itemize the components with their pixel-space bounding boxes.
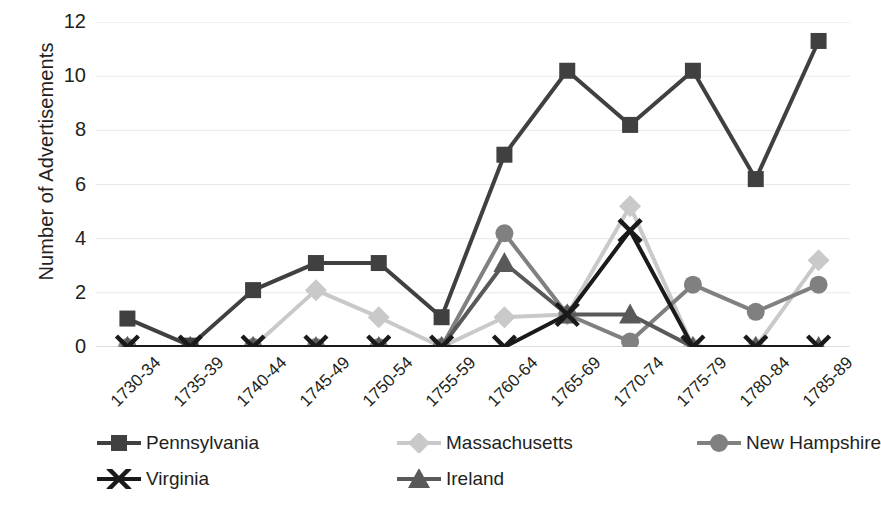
data-point-square bbox=[811, 33, 827, 49]
x-axis-tick-label: 1755-59 bbox=[421, 353, 479, 411]
x-axis-tick-label: 1740-44 bbox=[233, 353, 291, 411]
data-point-square bbox=[685, 63, 701, 79]
legend-item-new-hampshire[interactable]: New Hampshire bbox=[696, 430, 881, 456]
x-axis-ticks: 1730-341735-391740-441745-491750-541755-… bbox=[96, 349, 850, 439]
x-axis-tick-label: 1735-39 bbox=[170, 353, 228, 411]
data-point-square bbox=[434, 309, 450, 325]
data-point-circle bbox=[810, 276, 828, 294]
x-axis-tick-label: 1760-64 bbox=[484, 353, 542, 411]
legend-marker-triangle-icon bbox=[396, 469, 442, 489]
legend-item-ireland[interactable]: Ireland bbox=[396, 466, 504, 492]
series-massachusetts bbox=[116, 195, 829, 347]
legend-label: Virginia bbox=[146, 468, 209, 490]
legend-marker-diamond-icon bbox=[396, 433, 442, 453]
data-point-circle bbox=[747, 303, 765, 321]
legend-item-virginia[interactable]: Virginia bbox=[96, 466, 209, 492]
data-point-square bbox=[119, 311, 135, 327]
y-axis-tick-label: 2 bbox=[46, 282, 86, 302]
y-axis-tick-label: 12 bbox=[46, 11, 86, 31]
series-new-hampshire bbox=[118, 224, 827, 347]
x-axis-tick-label: 1775-79 bbox=[673, 353, 731, 411]
data-point-square bbox=[371, 255, 387, 271]
legend-marker-cross-icon bbox=[96, 469, 142, 489]
legend-label: New Hampshire bbox=[746, 432, 881, 454]
x-axis-tick-label: 1770-74 bbox=[610, 353, 668, 411]
data-point-square bbox=[496, 147, 512, 163]
data-point-circle bbox=[495, 224, 513, 242]
x-axis-tick-label: 1750-54 bbox=[359, 353, 417, 411]
data-point-square bbox=[308, 255, 324, 271]
legend-label: Pennsylvania bbox=[146, 432, 259, 454]
x-axis-tick-label: 1780-84 bbox=[736, 353, 794, 411]
series-line bbox=[127, 41, 818, 346]
data-point-circle bbox=[710, 434, 728, 452]
y-axis-tick-label: 4 bbox=[46, 228, 86, 248]
legend-label: Massachusetts bbox=[446, 432, 573, 454]
y-axis-tick-label: 6 bbox=[46, 174, 86, 194]
plot-area bbox=[96, 22, 850, 347]
gridlines bbox=[96, 22, 850, 293]
y-axis-tick-label: 8 bbox=[46, 119, 86, 139]
x-axis-tick-label: 1745-49 bbox=[296, 353, 354, 411]
data-point-square bbox=[748, 171, 764, 187]
x-axis-tick-label: 1785-89 bbox=[798, 353, 856, 411]
data-point-circle bbox=[684, 276, 702, 294]
x-axis-tick-label: 1765-69 bbox=[547, 353, 605, 411]
y-axis-tick-label: 10 bbox=[46, 65, 86, 85]
data-point-square bbox=[559, 63, 575, 79]
y-axis-tick-label: 0 bbox=[46, 336, 86, 356]
chart-legend: PennsylvaniaMassachusettsNew HampshireVi… bbox=[96, 430, 864, 515]
data-point-triangle bbox=[493, 252, 515, 272]
x-axis-tick-label: 1730-34 bbox=[107, 353, 165, 411]
legend-marker-circle-icon bbox=[696, 433, 742, 453]
y-axis-ticks: 024681012 bbox=[40, 0, 86, 515]
series-line bbox=[127, 263, 818, 347]
data-point-diamond bbox=[368, 306, 390, 328]
data-point-diamond bbox=[408, 433, 430, 453]
legend-label: Ireland bbox=[446, 468, 504, 490]
legend-marker-square-icon bbox=[96, 433, 142, 453]
legend-item-massachusetts[interactable]: Massachusetts bbox=[396, 430, 573, 456]
data-point-diamond bbox=[619, 195, 641, 217]
series-pennsylvania bbox=[119, 33, 826, 347]
data-point-square bbox=[622, 117, 638, 133]
data-point-diamond bbox=[493, 306, 515, 328]
series-line bbox=[127, 206, 818, 347]
data-point-square bbox=[111, 435, 127, 451]
data-point-square bbox=[245, 282, 261, 298]
legend-item-pennsylvania[interactable]: Pennsylvania bbox=[96, 430, 259, 456]
